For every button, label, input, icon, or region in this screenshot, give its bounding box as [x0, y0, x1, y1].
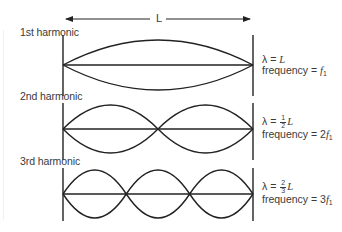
- harmonic-3-labels: λ = 23L frequency = 3f1: [262, 180, 333, 208]
- fraction: 23: [280, 180, 286, 194]
- harmonic-2-wave: [63, 103, 253, 160]
- harmonic-3-wave: [63, 168, 253, 221]
- harmonic-3-title: 3rd harmonic: [20, 155, 80, 167]
- harmonics-diagram: L 1st harmonic 2nd harmonic 3rd harmonic…: [0, 0, 342, 232]
- wave-upper: [63, 105, 253, 129]
- wave-upper: [63, 40, 253, 65]
- fraction: 12: [280, 115, 286, 129]
- harmonic-1-title: 1st harmonic: [20, 26, 79, 38]
- harmonic-1-labels: λ = L frequency = f1: [262, 54, 327, 79]
- wavelength-equation: λ = 23L: [262, 180, 333, 194]
- wave-upper: [63, 170, 253, 194]
- frequency-equation: frequency = 3f1: [262, 194, 333, 208]
- wavelength-equation: λ = 12L: [262, 115, 333, 129]
- harmonic-2-title: 2nd harmonic: [20, 90, 82, 102]
- wave-lower: [63, 65, 253, 90]
- harmonic-1-wave: [63, 35, 253, 96]
- harmonic-2-labels: λ = 12L frequency = 2f1: [262, 115, 333, 143]
- wave-lower: [63, 194, 253, 218]
- frequency-equation: frequency = f1: [262, 65, 327, 79]
- length-label: L: [153, 12, 165, 24]
- frequency-equation: frequency = 2f1: [262, 129, 333, 143]
- wave-lower: [63, 129, 253, 153]
